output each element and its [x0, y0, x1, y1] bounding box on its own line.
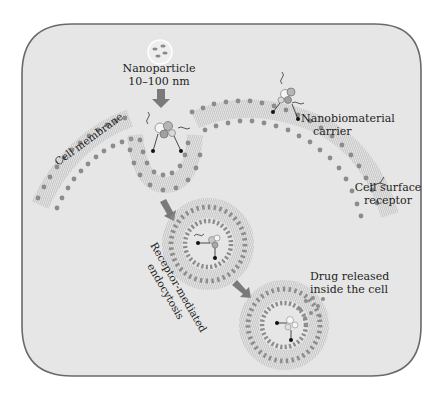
- figure-frame: [22, 24, 421, 376]
- nanoparticle-label: Nanoparticle: [123, 62, 196, 75]
- receptor-label: Cell surface: [355, 181, 422, 194]
- diagram-canvas: Nanoparticle 10–100 nm: [0, 0, 440, 394]
- receptor-label-line2: receptor: [364, 194, 413, 207]
- drug-release-label-line2: inside the cell: [310, 283, 389, 296]
- nanoparticle-size-label: 10–100 nm: [128, 75, 190, 88]
- nanoparticle-icon: [148, 40, 172, 64]
- drug-release-label: Drug released: [310, 270, 389, 283]
- carrier-label-line2: carrier: [313, 125, 352, 138]
- carrier-label: Nanobiomaterial: [301, 112, 395, 125]
